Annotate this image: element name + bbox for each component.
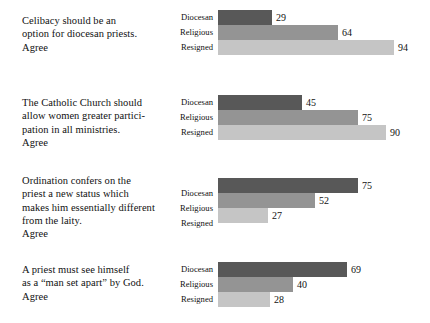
bar-row: 29 xyxy=(218,10,430,25)
bar xyxy=(218,193,315,208)
bar-column: 457590 xyxy=(218,95,430,140)
category-label-column: DiocesanReligiousResigned xyxy=(120,95,213,140)
category-label: Resigned xyxy=(120,292,213,307)
bar xyxy=(218,292,270,307)
bar-value-label: 27 xyxy=(272,208,282,223)
bar-row: 64 xyxy=(218,25,430,40)
bar-value-label: 29 xyxy=(276,10,286,25)
bar-row: 69 xyxy=(218,262,430,277)
bar-value-label: 40 xyxy=(297,277,307,292)
bar-value-label: 45 xyxy=(306,95,316,110)
bar-row: 94 xyxy=(218,40,430,55)
category-label: Diocesan xyxy=(120,10,213,25)
bar-value-label: 69 xyxy=(351,262,361,277)
category-label: Religious xyxy=(120,25,213,40)
bar xyxy=(218,40,394,55)
bar xyxy=(218,10,272,25)
bar-row: 40 xyxy=(218,277,430,292)
bar-column: 694028 xyxy=(218,262,430,307)
bar xyxy=(218,95,302,110)
bar xyxy=(218,262,347,277)
category-label: Resigned xyxy=(120,40,213,55)
category-label: Religious xyxy=(120,201,213,216)
category-label: Diocesan xyxy=(120,262,213,277)
category-label: Resigned xyxy=(120,125,213,140)
category-label-column: DiocesanReligiousResigned xyxy=(120,262,213,307)
bar-row: 75 xyxy=(218,178,430,193)
bar-column: 296494 xyxy=(218,10,430,55)
category-label-column: DiocesanReligiousResigned xyxy=(120,10,213,55)
bar xyxy=(218,277,293,292)
bar-row: 28 xyxy=(218,292,430,307)
bar xyxy=(218,25,338,40)
bar-value-label: 94 xyxy=(398,40,408,55)
grouped-bar-chart: Celibacy should be an option for diocesa… xyxy=(0,0,430,323)
bar-value-label: 52 xyxy=(319,193,329,208)
category-label: Religious xyxy=(120,277,213,292)
category-label-column: DiocesanReligiousResigned xyxy=(120,186,213,231)
bar-row: 52 xyxy=(218,193,430,208)
bar-row: 75 xyxy=(218,110,430,125)
category-label: Diocesan xyxy=(120,95,213,110)
bar-value-label: 28 xyxy=(274,292,284,307)
bar-column: 755227 xyxy=(218,178,430,223)
category-label: Religious xyxy=(120,110,213,125)
bar xyxy=(218,125,386,140)
category-label: Resigned xyxy=(120,216,213,231)
bar-value-label: 75 xyxy=(362,110,372,125)
bar-value-label: 90 xyxy=(390,125,400,140)
bar-row: 45 xyxy=(218,95,430,110)
bar xyxy=(218,178,358,193)
bar xyxy=(218,208,268,223)
bar-row: 27 xyxy=(218,208,430,223)
bar xyxy=(218,110,358,125)
bar-row: 90 xyxy=(218,125,430,140)
category-label: Diocesan xyxy=(120,186,213,201)
bar-value-label: 75 xyxy=(362,178,372,193)
bar-value-label: 64 xyxy=(342,25,352,40)
